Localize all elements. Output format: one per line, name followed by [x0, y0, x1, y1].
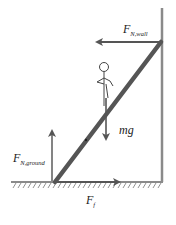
label-weight: mg [119, 123, 134, 137]
label-normal-wall: FN,wall [122, 22, 148, 37]
label-normal-ground: FN,ground [12, 151, 46, 166]
ladder-diagram: FN,wall FN,ground mg Ff [0, 0, 176, 225]
ladder [55, 42, 161, 182]
label-friction: Ff [85, 193, 96, 208]
person-figure [97, 63, 113, 107]
ladder-center-dot [85, 139, 87, 141]
person-head-icon [100, 63, 109, 72]
